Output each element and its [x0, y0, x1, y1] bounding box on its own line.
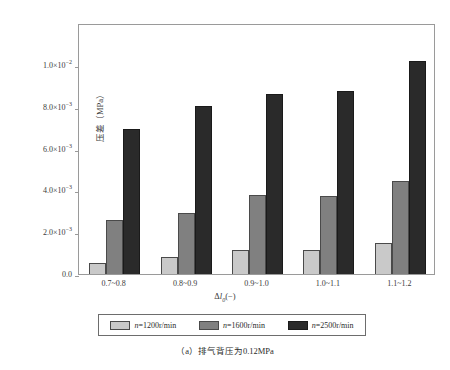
bar[interactable] [337, 91, 354, 274]
y-axis-tick-label: 0.0 [62, 270, 72, 279]
x-axis-tick-label: 1.0~1.1 [288, 279, 368, 288]
bars-layer [79, 25, 434, 274]
y-axis-tick-label: 1.0×10−2 [43, 61, 72, 70]
figure-container: 压差（MPa） 1.0×10−28.0×10−36.0×10−34.0×10−3… [0, 0, 450, 370]
legend-item[interactable]: n=1600r/min [199, 321, 265, 330]
legend-swatch [199, 321, 219, 330]
legend-swatch [110, 321, 130, 330]
legend-label: n=2500r/min [312, 321, 354, 330]
bar[interactable] [232, 250, 249, 274]
y-axis-tick-label: 6.0×10−3 [43, 145, 72, 154]
bar-group [293, 25, 364, 274]
y-axis-tick-exponent: −3 [66, 185, 72, 191]
bar-group [150, 25, 221, 274]
plot-area: 压差（MPa） 1.0×10−28.0×10−36.0×10−34.0×10−3… [78, 24, 435, 275]
bar-group [79, 25, 150, 274]
bar[interactable] [178, 213, 195, 274]
x-axis-title-unit: (−) [225, 291, 235, 301]
bar[interactable] [303, 250, 320, 274]
bar-group [222, 25, 293, 274]
y-axis-tick-exponent: −3 [66, 101, 72, 107]
bar[interactable] [89, 263, 106, 274]
bar[interactable] [392, 181, 409, 274]
y-axis-tick-exponent: −2 [66, 59, 72, 65]
bar[interactable] [123, 129, 140, 274]
y-axis-tick-label: 2.0×10−3 [43, 228, 72, 237]
bar[interactable] [375, 243, 392, 274]
y-axis-tick-mark [75, 276, 79, 277]
legend: n=1200r/minn=1600r/minn=2500r/min [98, 314, 366, 336]
x-axis-tick-label: 1.1~1.2 [359, 279, 439, 288]
legend-label: n=1600r/min [223, 321, 265, 330]
legend-swatch [288, 321, 308, 330]
y-axis-tick-exponent: −3 [66, 227, 72, 233]
figure-caption: （a）排气背压为0.12MPa [0, 344, 450, 356]
legend-item[interactable]: n=1200r/min [110, 321, 176, 330]
x-axis-tick-label: 0.8~0.9 [145, 279, 225, 288]
bar[interactable] [106, 220, 123, 274]
x-axis-title: Δl0(−) [0, 291, 450, 301]
bar[interactable] [266, 94, 283, 274]
legend-label: n=1200r/min [134, 321, 176, 330]
y-axis-tick-exponent: −3 [66, 143, 72, 149]
bar[interactable] [161, 257, 178, 274]
x-axis-tick-label: 0.9~1.0 [217, 279, 297, 288]
legend-item[interactable]: n=2500r/min [288, 321, 354, 330]
y-axis-tick-label: 4.0×10−3 [43, 186, 72, 195]
bar-group [365, 25, 436, 274]
y-axis-tick-label: 8.0×10−3 [43, 103, 72, 112]
x-axis-tick-label: 0.7~0.8 [74, 279, 154, 288]
bar[interactable] [249, 195, 266, 274]
bar[interactable] [195, 106, 212, 274]
bar[interactable] [409, 61, 426, 274]
bar[interactable] [320, 196, 337, 274]
